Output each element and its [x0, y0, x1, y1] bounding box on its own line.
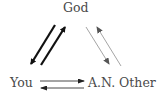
arrow-other-to-god: [97, 27, 121, 66]
node-label-other: A.N. Other: [88, 77, 156, 90]
node-label-god: God: [63, 2, 89, 15]
arrow-you-to-god: [41, 27, 65, 65]
arrow-god-to-other: [86, 27, 109, 64]
arrow-god-to-you: [31, 25, 55, 64]
node-label-you: You: [10, 77, 33, 90]
